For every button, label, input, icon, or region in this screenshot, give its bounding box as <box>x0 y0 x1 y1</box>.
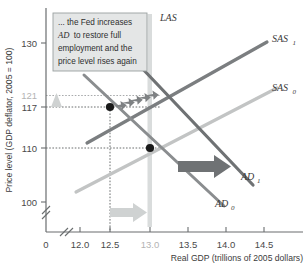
callout-line-3: employment and the <box>58 44 133 53</box>
x-tick-label-12-0: 12.0 <box>71 239 90 250</box>
las-line <box>148 14 153 227</box>
svg-text:LAS: LAS <box>159 12 177 23</box>
svg-text:AD: AD <box>240 171 255 182</box>
equilibrium-dot-12-5-117 <box>106 103 114 111</box>
callout-line-1: ... the Fed increases <box>58 18 132 27</box>
y-tick-label-121: 121 <box>21 90 37 101</box>
y-tick-label-130: 130 <box>21 38 37 49</box>
y-tick-label-117: 117 <box>22 102 37 113</box>
svg-text:SAS: SAS <box>272 33 288 44</box>
x-tick-label-13-5: 13.5 <box>179 239 198 250</box>
equilibrium-dot-13-0-110 <box>146 144 154 152</box>
curve-label-las: LAS <box>159 12 177 23</box>
x-origin-label: 0 <box>43 239 48 250</box>
y-tick-label-110: 110 <box>22 143 37 154</box>
svg-text:1: 1 <box>257 177 261 185</box>
as-ad-chart: 130 121 117 110 100 0 12.0 12.5 13.0 13.… <box>0 0 305 267</box>
svg-text:AD: AD <box>214 198 229 209</box>
svg-text:0: 0 <box>231 204 235 212</box>
x-tick-label-13-0: 13.0 <box>141 239 160 250</box>
callout-box: ... the Fed increases AD to restore full… <box>53 13 147 71</box>
svg-text:0: 0 <box>293 88 297 96</box>
callout-line-4: price level rises again <box>58 57 137 66</box>
chart-canvas: 130 121 117 110 100 0 12.0 12.5 13.0 13.… <box>0 0 305 267</box>
callout-line-2: AD to restore full <box>57 30 121 40</box>
svg-text:1: 1 <box>293 39 297 47</box>
x-axis-title: Real GDP (trillions of 2005 dollars) <box>171 253 303 263</box>
x-tick-label-14-0: 14.0 <box>217 239 236 250</box>
x-tick-label-12-5: 12.5 <box>101 239 120 250</box>
x-tick-label-14-5: 14.5 <box>255 239 274 250</box>
svg-text:SAS: SAS <box>272 82 288 93</box>
y-tick-label-100: 100 <box>21 197 37 208</box>
y-axis-title: Price level (GDP deflator, 2005 = 100) <box>4 47 14 192</box>
